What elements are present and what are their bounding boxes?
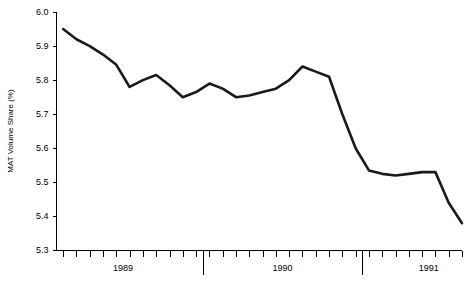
x-tick-marks (64, 251, 463, 257)
y-tick-label: 5.7 (36, 109, 49, 119)
y-tick-label: 5.6 (36, 143, 49, 153)
y-tick-label: 5.9 (36, 41, 49, 51)
x-year-label: 1991 (419, 263, 439, 273)
line-chart: 5.35.45.55.65.75.85.96.0 198919901991 MA… (0, 0, 472, 281)
y-tick-label: 6.0 (36, 7, 49, 17)
y-tick-labels: 5.35.45.55.65.75.85.96.0 (36, 7, 49, 256)
x-axis-group: 198919901991 (56, 251, 463, 275)
x-year-label: 1989 (113, 263, 133, 273)
chart-container: 5.35.45.55.65.75.85.96.0 198919901991 MA… (0, 0, 472, 281)
data-line-mat-volume-share (63, 29, 462, 223)
y-tick-marks (53, 12, 57, 251)
y-tick-label: 5.8 (36, 75, 49, 85)
y-tick-label: 5.3 (36, 245, 49, 255)
x-year-label: 1990 (273, 263, 293, 273)
series-group (63, 29, 462, 223)
x-year-labels: 198919901991 (113, 263, 439, 273)
y-axis-group: 5.35.45.55.65.75.85.96.0 (36, 7, 57, 256)
y-tick-label: 5.5 (36, 177, 49, 187)
y-tick-label: 5.4 (36, 211, 49, 221)
y-axis-title: MAT Volume Share (%) (6, 89, 15, 173)
